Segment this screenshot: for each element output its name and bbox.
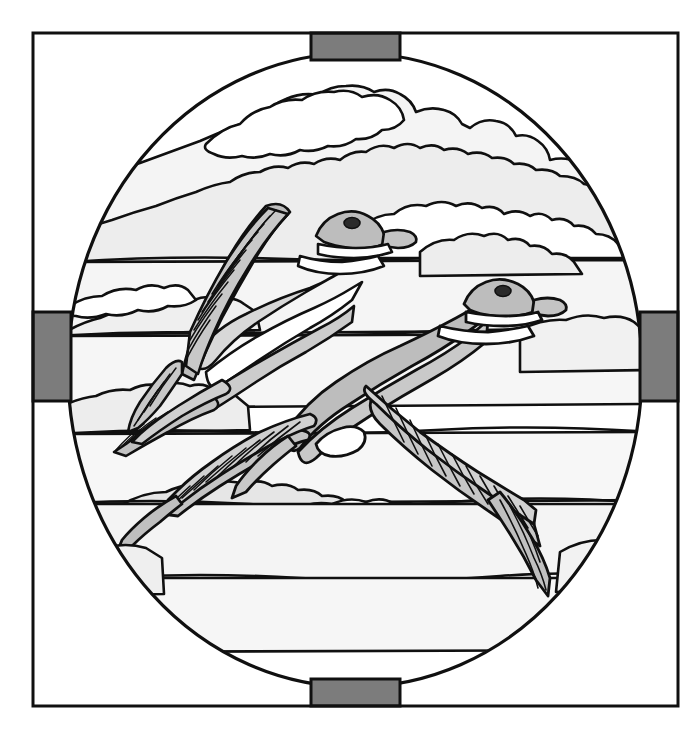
tab-bottom: [311, 679, 400, 706]
tab-top: [311, 33, 400, 60]
cloud-band-6: [520, 315, 650, 372]
artboard: [0, 0, 697, 740]
stained-glass-pattern: [0, 0, 697, 740]
oval-contents: [52, 86, 658, 652]
tab-left: [33, 312, 71, 401]
tab-right: [640, 312, 678, 401]
duck1-eye: [344, 218, 360, 229]
duck2-eye: [495, 286, 511, 297]
